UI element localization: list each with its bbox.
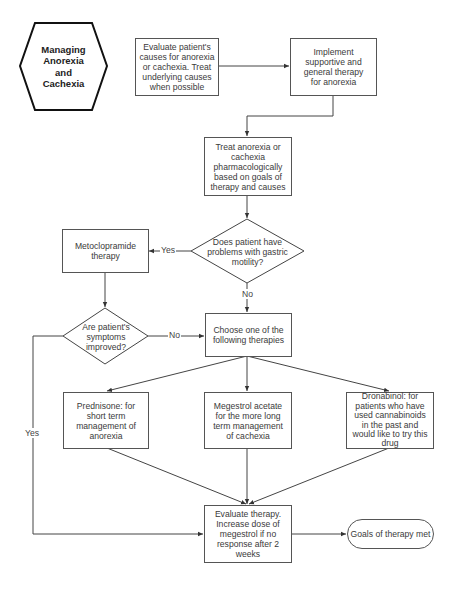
supportive-therapy-box: Implement supportive and general therapy… [290, 38, 377, 96]
dronabinol-box: Dronabinol: for patients who have used c… [346, 392, 434, 449]
start-title-line: Anorexia [43, 55, 84, 66]
gastric-no-label: No [241, 289, 254, 299]
megestrol-text: Megestrol acetate for the more long term… [211, 401, 285, 441]
evaluate-causes-box: Evaluate patient's causes for anorexia o… [135, 38, 219, 96]
improved-decision-text: Are patient's symptoms improved? [72, 320, 140, 354]
evaluate-therapy-text: Evaluate therapy. Increase dose of meges… [213, 509, 283, 559]
pharmacologic-text: Treat anorexia or cachexia pharmacologic… [208, 142, 288, 192]
improved-no-label: No [168, 330, 181, 340]
improved-yes-label: Yes [24, 428, 40, 438]
goals-met-text: Goals of therapy met [351, 529, 431, 539]
prednisone-box: Prednisone: for short term management of… [63, 392, 149, 449]
start-title-line: and [55, 67, 72, 78]
gastric-decision-text: Does patient have problems with gastric … [205, 232, 290, 272]
dronabinol-text: Dronabinol: for patients who have used c… [351, 392, 429, 448]
prednisone-text: Prednisone: for short term management of… [76, 401, 136, 441]
evaluate-causes-text: Evaluate patient's causes for anorexia o… [139, 42, 215, 92]
gastric-decision-label: Does patient have problems with gastric … [205, 237, 290, 267]
metoclopramide-text: Metoclopramide therapy [71, 241, 140, 261]
evaluate-therapy-box: Evaluate therapy. Increase dose of meges… [204, 505, 292, 563]
metoclopramide-box: Metoclopramide therapy [62, 229, 149, 273]
supportive-therapy-text: Implement supportive and general therapy… [301, 47, 366, 87]
start-title-lines: Managing Anorexia and Cachexia [41, 44, 85, 90]
megestrol-box: Megestrol acetate for the more long term… [204, 392, 292, 449]
pharmacologic-box: Treat anorexia or cachexia pharmacologic… [204, 137, 292, 196]
start-title: Managing Anorexia and Cachexia [20, 23, 107, 110]
choose-therapy-box: Choose one of the following therapies [205, 313, 292, 357]
gastric-yes-label: Yes [160, 245, 176, 255]
choose-therapy-text: Choose one of the following therapies [209, 325, 288, 345]
start-title-line: Cachexia [43, 78, 85, 89]
goals-met-terminal: Goals of therapy met [347, 519, 434, 549]
improved-decision-label: Are patient's symptoms improved? [72, 322, 140, 352]
start-title-line: Managing [41, 44, 85, 55]
